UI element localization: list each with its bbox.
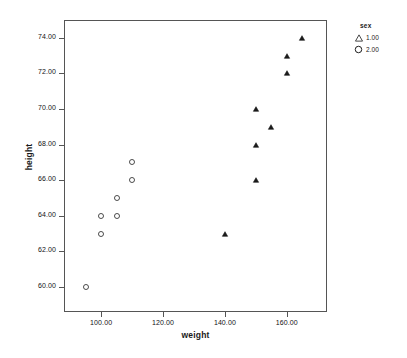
y-axis-title: height xyxy=(24,122,34,192)
data-point xyxy=(253,142,259,148)
data-point xyxy=(253,106,259,112)
plot-data-area xyxy=(64,20,327,312)
circle-marker-icon xyxy=(352,45,365,54)
data-point xyxy=(113,195,120,202)
data-point xyxy=(129,177,136,184)
x-axis-tick-label: 140.00 xyxy=(214,319,236,326)
y-axis-tick-label: 60.00 xyxy=(38,282,56,289)
legend-entry-label: 2.00 xyxy=(366,46,379,53)
x-axis-tick-label: 100.00 xyxy=(90,319,112,326)
y-axis-tick-label: 64.00 xyxy=(38,211,56,218)
y-axis-tick-label: 62.00 xyxy=(38,246,56,253)
legend-entry-label: 1.00 xyxy=(366,34,379,41)
data-point xyxy=(268,124,274,130)
scatter-plot-figure: 60.0062.0064.0066.0068.0070.0072.0074.00… xyxy=(0,0,407,358)
x-axis-tick-mark xyxy=(225,312,226,317)
data-point xyxy=(113,212,120,219)
legend-entry: 1.00 xyxy=(352,32,404,43)
x-axis-tick-label: 120.00 xyxy=(152,319,174,326)
x-axis-tick-mark xyxy=(101,312,102,317)
y-axis-tick-label: 74.00 xyxy=(38,33,56,40)
x-axis-title: weight xyxy=(64,330,327,340)
data-point xyxy=(299,35,305,41)
data-point xyxy=(284,53,290,59)
legend-entry: 2.00 xyxy=(352,44,404,55)
y-axis-tick-label: 66.00 xyxy=(38,175,56,182)
legend-title: sex xyxy=(360,22,404,29)
data-point xyxy=(129,159,136,166)
x-axis-tick-mark xyxy=(287,312,288,317)
data-point xyxy=(98,230,105,237)
x-axis-tick-label: 160.00 xyxy=(276,319,298,326)
data-point xyxy=(98,212,105,219)
legend-entry-list: 1.002.00 xyxy=(352,32,404,55)
y-axis-tick-label: 70.00 xyxy=(38,104,56,111)
y-axis-tick-label: 68.00 xyxy=(38,140,56,147)
x-axis-tick-mark xyxy=(163,312,164,317)
triangle-marker-icon xyxy=(352,34,365,42)
y-axis-tick-label: 72.00 xyxy=(38,68,56,75)
data-point xyxy=(284,70,290,76)
data-point xyxy=(222,231,228,237)
legend: sex 1.002.00 xyxy=(352,22,404,56)
data-point xyxy=(253,177,259,183)
data-point xyxy=(82,284,89,291)
